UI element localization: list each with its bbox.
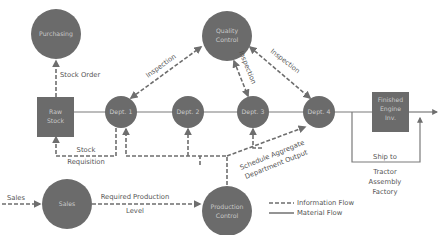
- node-production-control-label-2: Control: [216, 212, 239, 219]
- node-dept-4: Dept. 4: [303, 96, 335, 128]
- node-raw-stock-label-2: Stock: [47, 117, 65, 124]
- legend-material-flow-label: Material Flow: [297, 209, 343, 217]
- label-ship-to: Ship to: [373, 153, 397, 161]
- node-finished-engine-inv-label-2: Engine: [380, 105, 401, 113]
- node-dept-3: Dept. 3: [237, 96, 269, 128]
- node-dept-1-label: Dept. 1: [110, 108, 133, 116]
- node-quality-control-label-1: Quality: [216, 27, 238, 35]
- node-finished-engine-inv: Finished Engine Inv.: [372, 92, 409, 132]
- label-destination-1: Tractor: [372, 168, 397, 176]
- label-required-production-1: Required Production: [101, 193, 170, 201]
- node-dept-3-label: Dept. 3: [242, 108, 265, 116]
- node-dept-1: Dept. 1: [105, 96, 137, 128]
- node-purchasing: Purchasing: [31, 9, 81, 59]
- node-finished-engine-inv-label-3: Inv.: [385, 114, 396, 121]
- node-sales: Sales: [42, 179, 92, 229]
- label-destination-2: Assembly: [369, 178, 402, 186]
- node-raw-stock: Raw Stock: [37, 97, 74, 137]
- node-dept-4-label: Dept. 4: [308, 108, 331, 116]
- label-sales-input: Sales: [7, 194, 26, 202]
- node-sales-label: Sales: [59, 200, 75, 207]
- label-required-production-2: Level: [126, 207, 144, 215]
- label-stock-requisition-2: Requisition: [67, 158, 105, 166]
- node-production-control-label-1: Production: [211, 203, 244, 210]
- label-stock-order: Stock Order: [60, 71, 100, 79]
- label-inspection-right: Inspection: [269, 47, 302, 75]
- label-inspection-mid: Inspection: [237, 50, 258, 86]
- label-stock-requisition-1: Stock: [77, 146, 96, 154]
- material-information-flow-diagram: Purchasing Quality Control Raw Stock Dep…: [0, 0, 441, 235]
- legend-information-flow-label: Information Flow: [297, 199, 354, 207]
- legend: Information Flow Material Flow: [269, 199, 354, 217]
- node-dept-2-label: Dept. 2: [177, 108, 200, 116]
- node-raw-stock-label-1: Raw: [49, 108, 62, 115]
- node-dept-2: Dept. 2: [172, 96, 204, 128]
- node-production-control: Production Control: [202, 186, 252, 235]
- node-finished-engine-inv-label-1: Finished: [378, 96, 403, 103]
- label-destination-3: Factory: [373, 188, 398, 196]
- node-purchasing-label: Purchasing: [39, 30, 73, 38]
- node-quality-control-label-2: Control: [216, 36, 239, 43]
